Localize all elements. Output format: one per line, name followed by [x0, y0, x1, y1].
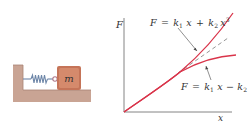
hardening-arrowhead-icon — [194, 48, 198, 51]
force-displacement-graph: F x F = k1 x + k2 x3 F = k1 x − k — [115, 13, 249, 123]
spring-icon — [23, 75, 57, 83]
y-axis-label: F — [115, 19, 124, 30]
x-axis-label: x — [218, 113, 223, 123]
mass-label: m — [64, 73, 73, 84]
mass-spring-system: m — [13, 65, 91, 102]
softening-equation: F = k1 x − k2 x3 — [180, 80, 249, 94]
hardening-leader — [178, 28, 197, 51]
figure-canvas: m F x F = k1 x + k2 x3 F = — [0, 0, 249, 124]
softening-arrowhead-icon — [205, 66, 208, 70]
hardening-equation: F = k1 x + k2 x3 — [149, 16, 230, 30]
